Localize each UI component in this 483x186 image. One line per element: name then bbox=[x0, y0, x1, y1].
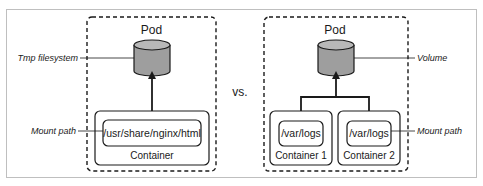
right-mount-callout: Mount path bbox=[417, 126, 462, 136]
container-1-name: Container 1 bbox=[275, 150, 327, 161]
left-container-name: Container bbox=[130, 150, 174, 161]
left-pod-label: Pod bbox=[141, 23, 162, 37]
comparison-separator: vs. bbox=[232, 85, 247, 99]
right-pod-label: Pod bbox=[324, 23, 345, 37]
right-pod: Pod Volume /var/logs Container 1 /var/lo… bbox=[264, 17, 462, 171]
left-pod: Pod Tmp filesystem /usr/share/nginx/html… bbox=[17, 17, 216, 171]
right-volume-callout: Volume bbox=[417, 53, 447, 63]
right-shared-volume-icon bbox=[318, 40, 354, 76]
left-mount-callout: Mount path bbox=[31, 126, 76, 136]
right-mount-connector bbox=[301, 97, 369, 111]
left-tmp-volume-icon bbox=[134, 40, 170, 76]
diagram-canvas: Pod Tmp filesystem /usr/share/nginx/html… bbox=[0, 0, 483, 186]
left-volume-callout: Tmp filesystem bbox=[17, 53, 78, 63]
container-2-mount-path: /var/logs bbox=[349, 127, 389, 139]
container-1-mount-path: /var/logs bbox=[281, 127, 321, 139]
container-2-name: Container 2 bbox=[343, 150, 395, 161]
left-mount-path: /usr/share/nginx/html bbox=[103, 127, 200, 139]
